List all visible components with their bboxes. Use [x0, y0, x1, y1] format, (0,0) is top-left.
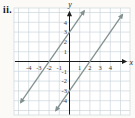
x-tick-label: -3: [36, 64, 41, 71]
coordinate-plane: xy-4-3-2-11234-4-3-2-11234: [0, 0, 135, 118]
y-tick-label: 1: [64, 48, 67, 55]
y-axis-label: y: [67, 0, 72, 9]
x-tick-label: 2: [88, 64, 91, 71]
y-tick-label: 3: [64, 28, 67, 35]
x-tick-label: -4: [26, 64, 32, 71]
x-axis-label: x: [129, 58, 134, 67]
x-tick-label: 3: [98, 64, 101, 71]
worksheet-figure: ii. xy-4-3-2-11234-4-3-2-11234: [0, 0, 135, 118]
y-tick-label: -3: [62, 87, 67, 94]
y-tick-label: -1: [62, 68, 67, 75]
y-tick-label: -2: [62, 77, 67, 84]
x-tick-label: 1: [78, 64, 81, 71]
